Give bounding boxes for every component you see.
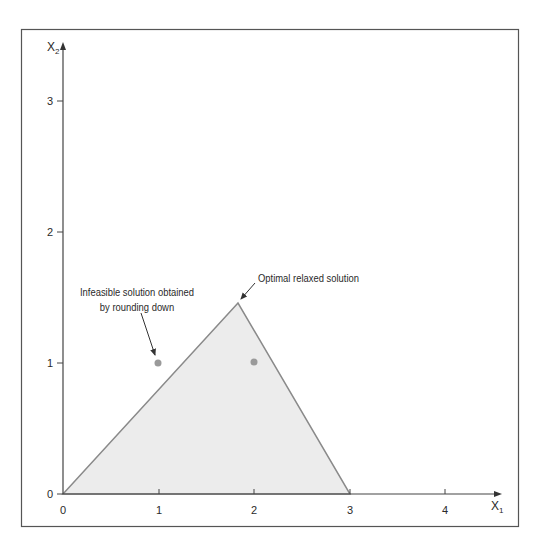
x-tick-label: 1 — [156, 504, 162, 516]
y-tick-label: 1 — [47, 357, 53, 369]
y-ticks — [57, 101, 63, 494]
x-tick-label: 4 — [442, 504, 448, 516]
y-tick-label: 3 — [47, 95, 53, 107]
optimal-annotation: Optimal relaxed solution — [258, 271, 359, 284]
optimal-annotation-arrow — [241, 283, 255, 299]
infeasible-annotation-line2: by rounding down — [100, 300, 174, 313]
y-tick-label: 0 — [47, 488, 53, 500]
x-axis-label: X1 — [491, 499, 504, 515]
diagram-canvas: 0 1 2 3 4 0 1 2 3 X1 X2 Infeasible solut… — [0, 0, 539, 545]
infeasible-point — [155, 360, 162, 367]
y-tick-label: 2 — [47, 226, 53, 238]
x-axis-arrow-icon — [494, 491, 502, 497]
x-tick-label: 2 — [251, 504, 257, 516]
infeasible-annotation-line1: Infeasible solution obtained — [80, 285, 194, 298]
x-tick-label: 3 — [347, 504, 353, 516]
y-axis-label: X2 — [47, 40, 60, 56]
feasible-region — [63, 303, 350, 494]
y-axis-arrow-icon — [60, 42, 66, 50]
x-tick-label: 0 — [60, 504, 66, 516]
infeasible-annotation-arrow — [141, 313, 155, 355]
integer-point — [251, 359, 258, 366]
